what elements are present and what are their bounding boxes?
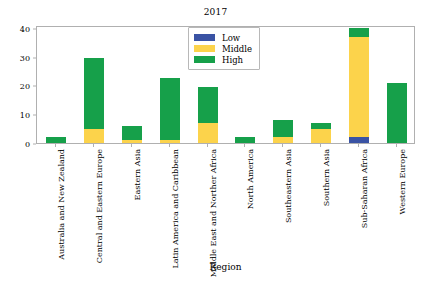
x-axis-label: Region <box>36 262 415 272</box>
bar-segment-middle[interactable] <box>160 140 180 143</box>
bar-segment-middle[interactable] <box>311 129 331 143</box>
y-tick-label: 0 <box>25 140 30 149</box>
x-axis: Australia and New ZealandCentral and Eas… <box>36 144 415 256</box>
bar-segment-high[interactable] <box>235 137 255 143</box>
legend-swatch-icon <box>194 56 215 63</box>
y-tick-label: 20 <box>20 82 30 91</box>
bar-segment-high[interactable] <box>273 120 293 137</box>
x-tick-label: Southern Asia <box>323 149 331 206</box>
chart-legend: LowMiddleHigh <box>188 27 260 70</box>
legend-item-high[interactable]: High <box>194 54 252 65</box>
x-tick-mark <box>282 144 283 147</box>
bar-segment-high[interactable] <box>349 28 369 37</box>
bar-segment-middle[interactable] <box>84 129 104 143</box>
bar-group[interactable] <box>273 25 293 143</box>
legend-swatch-icon <box>194 45 215 52</box>
chart-title: 2017 <box>0 7 431 17</box>
x-tick-label: Australia and New Zealand <box>58 149 66 260</box>
x-tick-mark <box>93 144 94 147</box>
bar-segment-high[interactable] <box>84 58 104 129</box>
legend-item-middle[interactable]: Middle <box>194 43 252 54</box>
x-tick-label: Southeastern Asia <box>285 149 293 223</box>
x-tick-mark <box>244 144 245 147</box>
legend-item-low[interactable]: Low <box>194 32 252 43</box>
chart-figure: 2017 010203040 Australia and New Zealand… <box>0 0 431 300</box>
y-tick-label: 10 <box>20 111 30 120</box>
bar-segment-high[interactable] <box>311 123 331 129</box>
x-tick-mark <box>207 144 208 147</box>
bar-group[interactable] <box>311 25 331 143</box>
x-tick-label: Middle East and Norther Africa <box>210 149 218 277</box>
bar-segment-high[interactable] <box>160 78 180 140</box>
x-tick-mark <box>358 144 359 147</box>
x-tick-mark <box>169 144 170 147</box>
x-tick-label: Western Europe <box>399 149 407 214</box>
bar-segment-middle[interactable] <box>198 123 218 143</box>
bar-group[interactable] <box>46 25 66 143</box>
legend-label: Low <box>222 33 240 43</box>
bar-segment-high[interactable] <box>387 83 407 143</box>
x-tick-label: North America <box>247 149 255 209</box>
y-tick-label: 30 <box>20 53 30 62</box>
bar-group[interactable] <box>84 25 104 143</box>
x-tick-label: Sub-Saharan Africa <box>361 149 369 228</box>
legend-label: Middle <box>222 44 252 54</box>
bar-group[interactable] <box>122 25 142 143</box>
x-tick-mark <box>396 144 397 147</box>
bar-group[interactable] <box>160 25 180 143</box>
y-axis: 010203040 <box>0 26 36 144</box>
bar-segment-high[interactable] <box>46 137 66 143</box>
bar-segment-low[interactable] <box>349 137 369 143</box>
legend-label: High <box>222 55 243 65</box>
bar-segment-middle[interactable] <box>273 137 293 143</box>
x-tick-mark <box>320 144 321 147</box>
bar-group[interactable] <box>387 25 407 143</box>
legend-swatch-icon <box>194 34 215 41</box>
bar-segment-high[interactable] <box>122 126 142 140</box>
x-tick-mark <box>55 144 56 147</box>
x-tick-mark <box>131 144 132 147</box>
x-tick-label: Eastern Asia <box>134 149 142 200</box>
x-tick-label: Latin America and Caribbean <box>172 149 180 269</box>
y-tick-label: 40 <box>20 24 30 33</box>
bar-group[interactable] <box>349 25 369 143</box>
x-tick-label: Central and Eastern Europe <box>96 149 104 263</box>
bar-segment-middle[interactable] <box>122 140 142 143</box>
bar-segment-high[interactable] <box>198 87 218 123</box>
bar-segment-middle[interactable] <box>349 37 369 138</box>
